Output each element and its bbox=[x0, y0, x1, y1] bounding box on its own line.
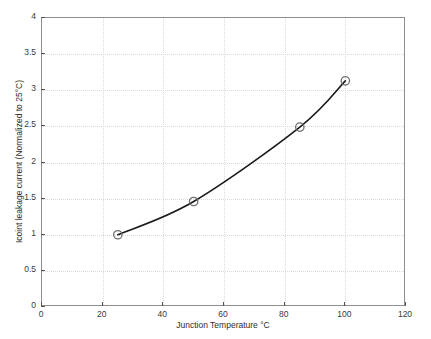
y-axis-label: Icoint leakage current (Normalized to 25… bbox=[14, 17, 26, 306]
x-tick-label: 80 bbox=[279, 309, 288, 319]
data-point-marker bbox=[341, 77, 349, 85]
y-tick-mark bbox=[41, 89, 45, 90]
x-tick-mark bbox=[405, 302, 406, 306]
y-tick-mark bbox=[41, 162, 45, 163]
x-tick-label: 60 bbox=[218, 309, 227, 319]
x-tick-label: 0 bbox=[39, 309, 44, 319]
data-point-marker bbox=[114, 231, 122, 239]
y-tick-mark bbox=[41, 306, 45, 307]
x-tick-label: 40 bbox=[158, 309, 167, 319]
plot-area bbox=[41, 17, 405, 306]
data-series-layer bbox=[42, 18, 406, 307]
x-tick-mark bbox=[284, 302, 285, 306]
x-tick-label: 100 bbox=[337, 309, 351, 319]
y-tick-mark bbox=[41, 17, 45, 18]
x-tick-mark bbox=[162, 302, 163, 306]
series-markers bbox=[114, 77, 350, 239]
y-tick-mark bbox=[41, 125, 45, 126]
data-point-marker bbox=[189, 197, 197, 205]
x-axis-label: Junction Temperature °C bbox=[41, 320, 405, 330]
y-tick-mark bbox=[41, 234, 45, 235]
data-point-marker bbox=[296, 123, 304, 131]
x-tick-mark bbox=[344, 302, 345, 306]
y-tick-mark bbox=[41, 270, 45, 271]
y-tick-mark bbox=[41, 198, 45, 199]
x-tick-mark bbox=[223, 302, 224, 306]
x-tick-label: 20 bbox=[97, 309, 106, 319]
chart-figure: 02040608010012000.511.522.533.54 Junctio… bbox=[0, 0, 431, 339]
series-line-path bbox=[118, 81, 345, 235]
x-tick-label: 120 bbox=[398, 309, 412, 319]
x-tick-mark bbox=[102, 302, 103, 306]
y-tick-mark bbox=[41, 53, 45, 54]
